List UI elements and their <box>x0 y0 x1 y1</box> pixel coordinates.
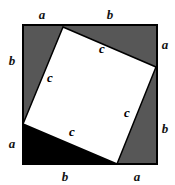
label-a-left-bottom: a <box>9 137 16 150</box>
label-b-top-right: b <box>107 8 114 21</box>
label-a-bottom-right: a <box>134 170 141 183</box>
label-b-left-top: b <box>9 54 16 67</box>
label-b-right-bottom: b <box>162 122 169 135</box>
label-c-bottom: c <box>69 125 75 138</box>
label-b-bottom-left: b <box>62 170 69 183</box>
label-a-top-left: a <box>39 8 46 21</box>
label-c-right: c <box>124 106 130 119</box>
label-c-left: c <box>47 71 53 84</box>
label-c-top: c <box>99 42 105 55</box>
pythagorean-diagram: abababab cccc <box>0 0 175 185</box>
label-a-right-top: a <box>162 38 169 51</box>
geometry-figure <box>0 0 175 185</box>
